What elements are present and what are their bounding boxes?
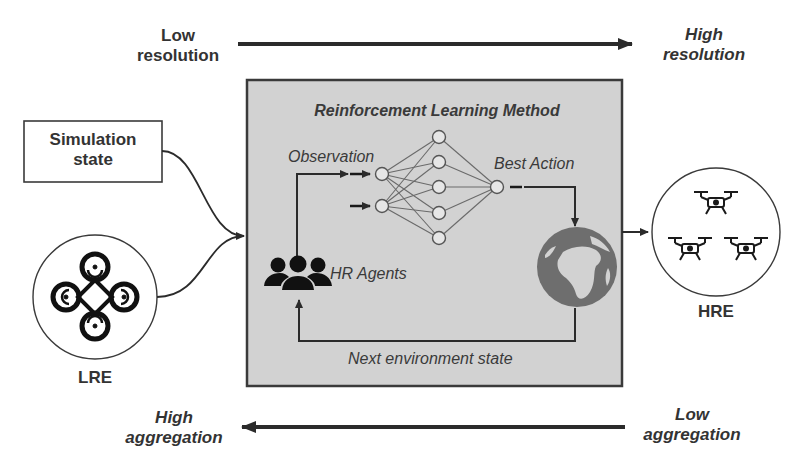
simulation-state-line2: state [24,150,162,170]
hre-circle [652,168,780,296]
nn-hidden-node [433,207,446,220]
hre-label: HRE [676,302,756,322]
best-action-label: Best Action [494,155,574,173]
simulation-state-line1: Simulation [24,130,162,150]
rl-method-title: Reinforcement Learning Method [262,102,612,120]
high-aggregation-label: High aggregation [114,408,234,447]
hr-agents-label: HR Agents [330,265,407,283]
nn-output-node [491,181,504,194]
high-resolution-line2: resolution [644,45,764,65]
low-aggregation-line1: Low [632,405,752,425]
low-aggregation-label: Low aggregation [632,405,752,444]
lre-label: LRE [55,368,135,388]
nn-hidden-node [433,131,446,144]
nn-input-node [376,200,389,213]
high-resolution-line1: High [644,25,764,45]
nn-hidden-node [433,181,446,194]
observation-label: Observation [288,148,374,166]
globe-icon [537,227,617,307]
nn-input-node [376,168,389,181]
high-aggregation-line1: High [114,408,234,428]
next-state-label: Next environment state [348,350,513,368]
high-resolution-label: High resolution [644,25,764,64]
low-resolution-line1: Low [118,26,238,46]
low-resolution-label: Low resolution [118,26,238,65]
nn-hidden-node [433,156,446,169]
low-resolution-line2: resolution [118,46,238,66]
simulation-state-label: Simulation state [24,130,162,169]
high-aggregation-line2: aggregation [114,428,234,448]
input-connector-curves [157,151,244,297]
low-aggregation-line2: aggregation [632,425,752,445]
nn-hidden-node [433,232,446,245]
